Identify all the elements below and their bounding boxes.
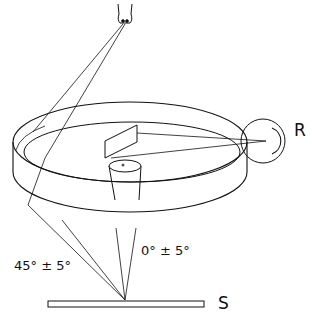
sample-rays xyxy=(28,205,136,300)
sample-label: S xyxy=(218,295,229,312)
sample xyxy=(48,301,204,307)
lens-cone xyxy=(109,160,141,200)
receiver-label: R xyxy=(294,122,306,139)
ring-reflector xyxy=(13,102,247,212)
illumination-angle-label: 45° ± 5° xyxy=(14,259,71,272)
lamp-icon xyxy=(118,4,132,23)
optical-diagram: R S 45° ± 5° 0° ± 5° xyxy=(0,0,312,319)
mirror xyxy=(105,125,137,158)
viewing-angle-label: 0° ± 5° xyxy=(141,244,190,257)
